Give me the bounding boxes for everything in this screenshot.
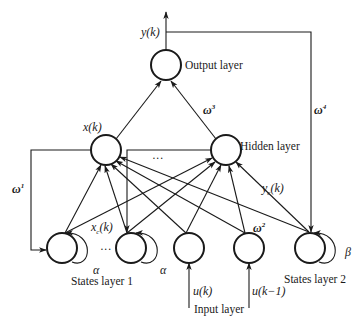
- label-alpha-2: α: [160, 263, 167, 277]
- hidden-node-2: [211, 135, 241, 165]
- label-input-2: u(k−1): [252, 284, 285, 298]
- elman-network-diagram: y(k) Output layer x(k) Hidden layer ··· …: [0, 0, 362, 329]
- label-hidden-layer: Hidden layer: [240, 140, 300, 153]
- label-states-layer-2: States layer 2: [284, 273, 346, 286]
- label-weight-w2: ω2: [253, 221, 266, 235]
- edge-u1-h2: [229, 166, 245, 233]
- edge-s1a-h2: [65, 158, 212, 233]
- label-xc-signal: xc(k): [90, 220, 113, 236]
- label-output-layer: Output layer: [185, 59, 243, 72]
- states1-node-1: [47, 233, 77, 263]
- states1-ellipsis: ···: [100, 243, 112, 255]
- label-input-layer: Input layer: [194, 303, 244, 316]
- label-beta: β: [344, 245, 351, 259]
- edge-u0-h2: [186, 165, 221, 233]
- label-weight-w3: ω3: [203, 103, 216, 117]
- input-node-2: [234, 233, 264, 263]
- label-states-layer-1: States layer 1: [71, 275, 133, 288]
- edge-h1-out: [116, 81, 161, 139]
- label-weight-w4: ω4: [314, 103, 327, 117]
- label-output-signal: y(k): [140, 25, 160, 39]
- edge-s1b-h2: [127, 162, 215, 233]
- states1-node-2: [116, 233, 146, 263]
- label-weight-w1: ω1: [12, 182, 24, 196]
- output-node: [151, 50, 181, 80]
- label-input-1: u(k): [193, 284, 212, 298]
- hidden-node-1: [91, 135, 121, 165]
- label-yc-signal: yc(k): [261, 181, 284, 197]
- edge-u0-h1: [111, 164, 186, 233]
- states2-node: [295, 233, 325, 263]
- label-hidden-output: x(k): [82, 120, 102, 134]
- edge-s2-h2: [236, 162, 309, 232]
- input-node-1: [174, 233, 204, 263]
- hidden-ellipsis: ···: [152, 152, 164, 164]
